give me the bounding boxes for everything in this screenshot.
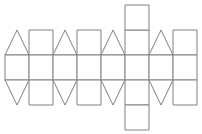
net-triangle-down-tri-bot-3 [53, 80, 77, 105]
net-square-sq-extra-top [125, 5, 149, 30]
net-square-sq-extra-bottom [125, 105, 149, 130]
net-diagram [0, 0, 202, 134]
net-square-sq-top-2 [29, 30, 53, 55]
net-triangle-down-tri-bot-5 [101, 80, 125, 105]
net-triangle-up-tri-top-7 [149, 30, 173, 55]
geometric-net-figure [0, 0, 202, 134]
net-triangle-down-tri-bot-7 [149, 80, 173, 105]
net-square-sq-bot-6 [125, 80, 149, 105]
net-square-band-sq-2 [29, 55, 53, 80]
net-square-sq-bot-8 [173, 80, 197, 105]
net-square-band-sq-3 [53, 55, 77, 80]
net-triangle-up-tri-top-3 [53, 30, 77, 55]
net-triangle-up-tri-top-1 [5, 30, 29, 55]
net-shape-group [5, 5, 197, 130]
net-square-band-sq-4 [77, 55, 101, 80]
net-square-sq-top-8 [173, 30, 197, 55]
net-square-sq-bot-2 [29, 80, 53, 105]
net-square-band-sq-7 [149, 55, 173, 80]
net-square-band-sq-6 [125, 55, 149, 80]
net-square-sq-top-6 [125, 30, 149, 55]
net-triangle-down-tri-bot-1 [5, 80, 29, 105]
net-square-band-sq-5 [101, 55, 125, 80]
net-triangle-up-tri-top-5 [101, 30, 125, 55]
net-square-band-sq-1 [5, 55, 29, 80]
net-square-sq-bot-4 [77, 80, 101, 105]
net-square-band-sq-8 [173, 55, 197, 80]
net-square-sq-top-4 [77, 30, 101, 55]
